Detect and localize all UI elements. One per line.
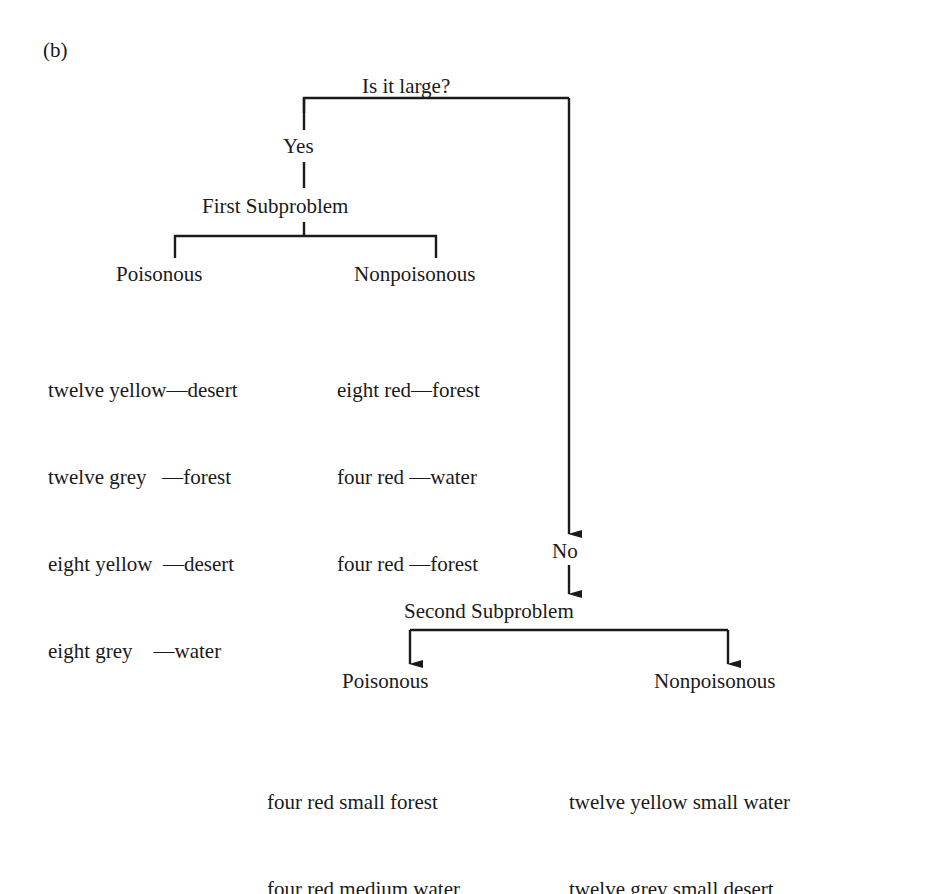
list-item: four red small forest	[267, 788, 460, 817]
first-subproblem-label: First Subproblem	[202, 196, 348, 217]
list-item: four red medium water	[267, 875, 460, 894]
list-item: twelve yellow small water	[569, 788, 815, 817]
list-item: four red —forest	[337, 550, 480, 579]
list-item: eight yellow —desert	[48, 550, 238, 579]
second-nonpoisonous-list: twelve yellow small water twelve grey sm…	[569, 730, 815, 894]
list-item: twelve yellow—desert	[48, 376, 238, 405]
list-item: eight red—forest	[337, 376, 480, 405]
first-nonpoisonous-list: eight red—forest four red —water four re…	[337, 318, 480, 608]
second-poisonous-label: Poisonous	[342, 671, 428, 692]
list-item: twelve grey —forest	[48, 463, 238, 492]
panel-label: (b)	[43, 40, 68, 61]
first-poisonous-list: twelve yellow—desert twelve grey —forest…	[48, 318, 238, 695]
second-poisonous-list: four red small forest four red medium wa…	[267, 730, 460, 894]
root-question: Is it large?	[362, 76, 450, 97]
no-label: No	[552, 541, 578, 562]
list-item: four red —water	[337, 463, 480, 492]
first-nonpoisonous-label: Nonpoisonous	[354, 264, 475, 285]
second-nonpoisonous-label: Nonpoisonous	[654, 671, 775, 692]
root-bar	[304, 98, 569, 113]
yes-label: Yes	[283, 136, 314, 157]
list-item: eight grey —water	[48, 637, 238, 666]
first-poisonous-label: Poisonous	[116, 264, 202, 285]
second-subproblem-label: Second Subproblem	[404, 601, 574, 622]
first-subproblem-branch	[175, 236, 436, 258]
list-item: twelve grey small desert	[569, 875, 815, 894]
